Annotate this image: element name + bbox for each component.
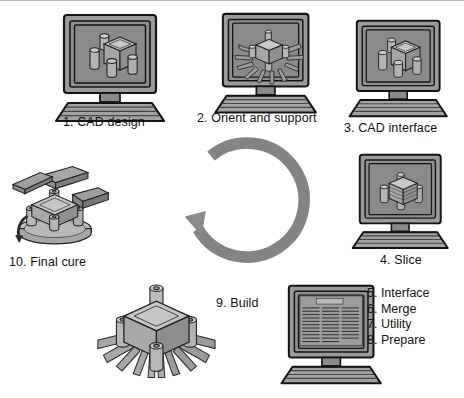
step-1-label: 1. CAD design	[63, 115, 145, 130]
step-4-monitor	[353, 155, 448, 248]
step-1-monitor	[56, 15, 164, 121]
step-7-label: 7. Utility	[367, 317, 430, 333]
step-3-monitor	[350, 21, 447, 116]
diagram-canvas: 1. CAD design 2. Orient and support 3. C…	[0, 0, 464, 398]
step-4-label: 4. Slice	[380, 253, 422, 268]
steps-5-8-label-group: 5. Interface 6. Merge 7. Utility 8. Prep…	[367, 286, 430, 348]
step-9-built-part	[98, 285, 215, 377]
step-10-label: 10. Final cure	[9, 255, 86, 270]
step-10-final-cure-part	[13, 167, 108, 244]
step-5-label: 5. Interface	[367, 286, 430, 302]
step-2-monitor	[215, 14, 315, 113]
step-9-label: 9. Build	[216, 296, 259, 311]
step-2-label: 2. Orient and support	[197, 111, 317, 126]
step-3-label: 3. CAD interface	[344, 121, 437, 136]
step-8-label: 8. Prepare	[367, 333, 430, 349]
stereolithography-process-figure: 1. CAD design 2. Orient and support 3. C…	[0, 1, 464, 398]
process-cycle-arrow	[186, 143, 304, 257]
step-6-label: 6. Merge	[367, 302, 430, 318]
step-5-8-monitor	[281, 286, 380, 384]
